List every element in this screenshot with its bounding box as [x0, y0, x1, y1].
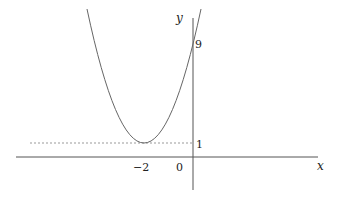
vertex-x-label: −2: [133, 161, 149, 174]
origin-label: 0: [176, 161, 183, 174]
parabola-curve: [87, 9, 201, 143]
vertex-y-label: 1: [196, 138, 203, 151]
y-intercept-label: 9: [195, 38, 202, 51]
function-graph: y x 0 −2 1 9: [0, 0, 339, 197]
y-axis-label: y: [175, 11, 183, 25]
x-axis-label: x: [317, 159, 324, 173]
